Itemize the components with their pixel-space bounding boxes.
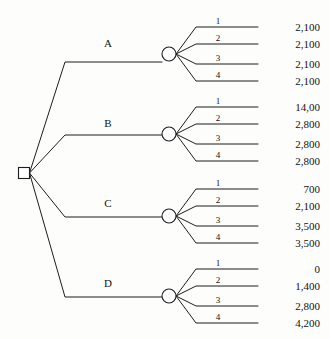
state-label-D-1: 1	[216, 258, 221, 268]
payoff-B-3: 2,800	[295, 138, 320, 150]
state-label-C-3: 3	[216, 215, 221, 225]
alternative-label-A: A	[104, 37, 112, 49]
state-label-A-3: 3	[216, 53, 221, 63]
payoff-C-2: 2,100	[295, 200, 320, 212]
payoff-C-4: 3,500	[295, 237, 320, 249]
payoff-D-4: 4,200	[295, 317, 320, 329]
nodes-layer	[19, 47, 177, 303]
state-label-B-4: 4	[216, 150, 221, 160]
payoff-C-3: 3,500	[295, 220, 320, 232]
chance-node-A[interactable]	[162, 47, 176, 61]
state-label-D-4: 4	[216, 312, 221, 322]
payoff-A-3: 2,100	[295, 58, 320, 70]
payoff-D-1: 0	[315, 263, 321, 275]
alternative-edge-B	[30, 135, 163, 173]
state-label-B-2: 2	[216, 113, 221, 123]
state-label-A-4: 4	[216, 70, 221, 80]
payoff-A-1: 2,100	[295, 21, 320, 33]
payoff-A-2: 2,100	[295, 38, 320, 50]
state-label-D-3: 3	[216, 295, 221, 305]
alternative-label-B: B	[104, 117, 111, 129]
payoff-B-2: 2,800	[295, 118, 320, 130]
alternative-edge-D	[30, 173, 163, 297]
alternative-label-C: C	[104, 197, 111, 209]
decision-node[interactable]	[19, 168, 30, 179]
chance-node-B[interactable]	[162, 127, 176, 141]
edges-layer	[30, 27, 259, 323]
state-label-C-2: 2	[216, 195, 221, 205]
payoff-B-4: 2,800	[295, 155, 320, 167]
state-label-B-3: 3	[216, 133, 221, 143]
tree-canvas: 12,10022,10032,10042,100A114,0022,80032,…	[0, 0, 330, 339]
alternative-edge-C	[30, 173, 163, 217]
payoff-A-4: 2,100	[295, 75, 320, 87]
payoff-D-2: 1,400	[295, 280, 320, 292]
alternative-label-D: D	[104, 277, 112, 289]
state-label-C-1: 1	[216, 178, 221, 188]
payoff-D-3: 2,800	[295, 300, 320, 312]
state-label-A-1: 1	[216, 16, 221, 26]
state-label-A-2: 2	[216, 33, 221, 43]
alternative-edge-A	[30, 62, 163, 173]
chance-node-C[interactable]	[162, 209, 176, 223]
chance-node-D[interactable]	[162, 289, 176, 303]
decision-tree-diagram: 12,10022,10032,10042,100A114,0022,80032,…	[0, 0, 330, 339]
state-label-B-1: 1	[216, 96, 221, 106]
state-label-D-2: 2	[216, 275, 221, 285]
labels-layer: 12,10022,10032,10042,100A114,0022,80032,…	[104, 16, 320, 329]
payoff-B-1: 14,00	[295, 101, 320, 113]
state-label-C-4: 4	[216, 232, 221, 242]
payoff-C-1: 700	[304, 183, 321, 195]
